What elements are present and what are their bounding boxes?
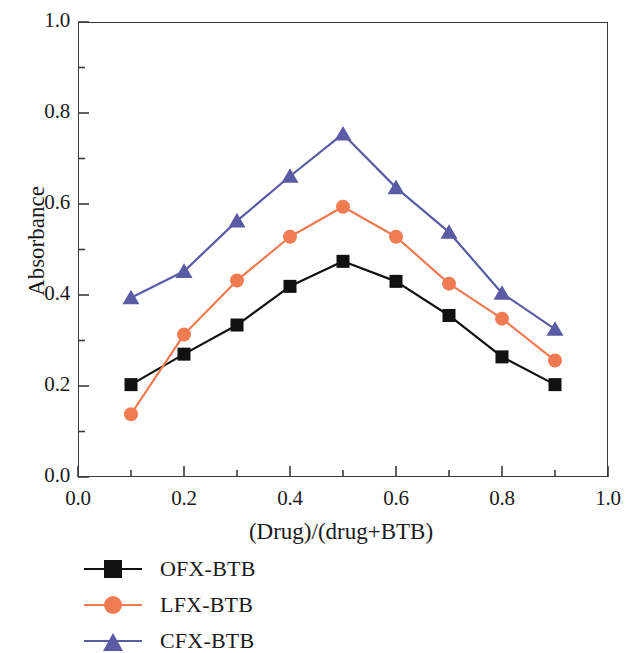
x-tick-label: 1.0 (578, 486, 638, 511)
legend-label-lfx-btb: LFX-BTB (160, 592, 253, 618)
triangle-marker-icon (103, 633, 123, 651)
y-tick-label: 0.0 (14, 463, 70, 488)
legend-label-ofx-btb: OFX-BTB (160, 556, 256, 582)
legend-label-cfx-btb: CFX-BTB (160, 628, 254, 653)
x-axis-title: (Drug)/(drug+BTB) (171, 519, 511, 545)
legend-swatch-cfx-btb (84, 626, 142, 653)
legend-item-cfx-btb[interactable]: CFX-BTB (84, 623, 384, 653)
x-tick-label: 0.2 (154, 486, 214, 511)
circle-marker-icon (104, 596, 122, 614)
square-marker-icon (104, 560, 122, 578)
y-axis-title: Absorbance (24, 141, 50, 341)
legend-item-ofx-btb[interactable]: OFX-BTB (84, 551, 384, 587)
legend-swatch-ofx-btb (84, 554, 142, 584)
y-tick-label: 0.8 (14, 99, 70, 124)
x-tick-label: 0.4 (260, 486, 320, 511)
x-tick-label: 0.8 (472, 486, 532, 511)
legend-item-lfx-btb[interactable]: LFX-BTB (84, 587, 384, 623)
plot-area (78, 22, 608, 477)
legend-swatch-lfx-btb (84, 590, 142, 620)
y-tick-label: 1.0 (14, 8, 70, 33)
chart-legend: OFX-BTB LFX-BTB CFX-BTB (84, 551, 384, 653)
jobs-plot-figure: 0.0 0.2 0.4 0.6 0.8 1.0 0.0 0.2 0.4 0.6 … (0, 0, 642, 653)
y-tick-label: 0.2 (14, 372, 70, 397)
x-tick-label: 0.6 (366, 486, 426, 511)
x-tick-label: 0.0 (48, 486, 108, 511)
